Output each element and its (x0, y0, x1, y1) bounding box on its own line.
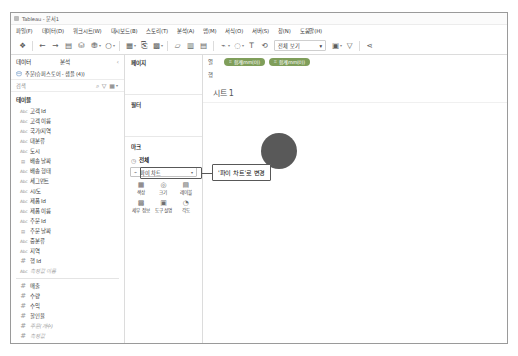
menu-file[interactable]: 파일(F) (16, 27, 33, 35)
pages-card-shelf[interactable] (125, 70, 202, 92)
filter-icon[interactable]: ▽ (102, 82, 107, 89)
pill-icon: ⌗ (274, 59, 277, 64)
field-label: 제품 이름 (30, 207, 51, 215)
marks-label-button[interactable]: ▤ 레이블 (175, 181, 197, 195)
column-pill[interactable]: ⌗ 합계(mm(0)) (269, 58, 310, 66)
list-item[interactable]: Abc고객 Id (11, 106, 124, 116)
chevron-down-icon[interactable]: ▾ (134, 43, 136, 48)
list-item[interactable]: #측정값 (11, 331, 124, 341)
swap-rows-columns-icon[interactable]: ▱ (171, 39, 184, 52)
calendar-icon: ▤ (20, 229, 26, 234)
marks-angle-button[interactable]: ◔ 각도 (175, 199, 197, 213)
abc-type-icon: Abc (20, 119, 26, 124)
save-icon[interactable]: ▤ (62, 39, 75, 52)
sort-descending-icon[interactable]: ▤ (197, 39, 210, 52)
columns-shelf[interactable]: 열 ⌗ 합계(mm(0)) ⌗ 합계(mm(0)) (203, 55, 507, 68)
fix-axes-icon[interactable]: ⟲ (258, 39, 271, 52)
column-pill[interactable]: ⌗ 합계(mm(0)) (224, 58, 265, 66)
toolbar-separator (359, 41, 360, 51)
tableau-home-icon[interactable]: ❖ (16, 39, 29, 52)
tab-analytics[interactable]: 분석 (60, 58, 104, 66)
list-item[interactable]: #행 Id (11, 256, 124, 266)
list-item[interactable]: Abc도시 (11, 146, 124, 156)
label-icon: ▤ (183, 181, 190, 189)
duplicate-sheet-icon[interactable]: ⎘ (137, 39, 150, 52)
viz-canvas[interactable] (203, 102, 507, 343)
angle-icon: ◔ (183, 199, 189, 207)
collapse-pane-icon[interactable]: ‹ (117, 58, 119, 65)
list-item[interactable]: Abc주문 Id (11, 216, 124, 226)
data-source-label: 주문(슈퍼스토어 - 샘플 (4)) (25, 70, 85, 77)
pie-chart-icon: ⌁ (134, 169, 137, 175)
view-size-selector[interactable]: 전체 보기 ▾ (274, 40, 326, 51)
sort-ascending-icon[interactable]: ▥ (184, 39, 197, 52)
marks-angle-label: 각도 (182, 208, 190, 213)
show-mark-labels-icon[interactable]: T (245, 39, 258, 52)
data-source-row[interactable]: 주문(슈퍼스토어 - 샘플 (4)) (11, 68, 124, 80)
marks-detail-button[interactable]: ▩ 세부 정보 (130, 199, 152, 213)
field-label: 할인율 (30, 312, 44, 320)
list-item[interactable]: Abc측정값 이름 (11, 266, 124, 276)
menu-worksheet[interactable]: 워크시트(W) (73, 27, 102, 35)
list-item[interactable]: Abc지역 (11, 246, 124, 256)
list-item[interactable]: ▤배송 날짜 (11, 156, 124, 166)
menu-format[interactable]: 서식(O) (225, 27, 243, 35)
list-item[interactable]: #할인율 (11, 311, 124, 321)
chevron-down-icon[interactable]: ▾ (161, 43, 163, 48)
number-type-icon: # (20, 303, 26, 310)
undo-icon[interactable]: ← (36, 39, 49, 52)
field-label: 배송 형태 (30, 167, 51, 175)
list-item[interactable]: Abc제품 Id (11, 196, 124, 206)
chevron-down-icon[interactable]: ▾ (113, 43, 115, 48)
list-item[interactable]: Abc제품 이름 (11, 206, 124, 216)
list-item[interactable]: Abc시/도 (11, 186, 124, 196)
filters-card-shelf[interactable] (125, 112, 202, 134)
rows-shelf[interactable]: 행 (203, 68, 507, 81)
share-icon[interactable]: ⋖ (363, 39, 376, 52)
search-icon[interactable]: ⌕ (96, 82, 99, 90)
marks-size-button[interactable]: ◎ 크기 (152, 181, 174, 195)
field-label: 측정값 이름 (30, 267, 56, 275)
chevron-down-icon[interactable]: ▾ (242, 43, 244, 48)
list-item[interactable]: #수량 (11, 291, 124, 301)
field-label: 중분류 (30, 237, 44, 245)
list-item[interactable]: #주문(개수) (11, 321, 124, 331)
group-by-icon[interactable]: ▦ (109, 82, 115, 89)
field-label: 지역 (30, 247, 40, 255)
list-item[interactable]: #수익 (11, 301, 124, 311)
mark-type-dropdown[interactable]: ⌁ 파이 차트 ▾ (130, 167, 197, 177)
menu-analysis[interactable]: 분석(A) (177, 27, 194, 35)
list-item[interactable]: Abc세그먼트 (11, 176, 124, 186)
menu-story[interactable]: 스토리(T) (146, 27, 168, 35)
menu-map[interactable]: 맵(M) (203, 27, 216, 35)
redo-icon[interactable]: → (49, 39, 62, 52)
menu-window[interactable]: 창(N) (278, 27, 291, 35)
menu-help[interactable]: 도움말(H) (300, 27, 322, 35)
show-me-icon[interactable]: ▽ (343, 39, 356, 52)
refresh-data-source-icon[interactable]: ⛁ (75, 39, 88, 52)
chevron-down-icon[interactable]: ▾ (228, 43, 230, 48)
chevron-down-icon: ▾ (191, 170, 193, 175)
chevron-down-icon[interactable]: ▾ (116, 83, 118, 88)
field-label: 수량 (30, 292, 40, 300)
menu-server[interactable]: 서버(S) (252, 27, 269, 35)
list-item[interactable]: Abc대분류 (11, 136, 124, 146)
cards-pane: 페이지 필터 마크 ◷ 전체 ⌁ 파이 차트 ▾ ▦ (125, 55, 203, 343)
list-item[interactable]: Abc고객 이름 (11, 116, 124, 126)
list-item[interactable]: Abc국가/지역 (11, 126, 124, 136)
menu-data[interactable]: 데이터(D) (42, 27, 64, 35)
abc-type-icon: Abc (20, 189, 26, 194)
list-item[interactable]: Abc배송 형태 (11, 166, 124, 176)
list-item[interactable]: #매출 (11, 281, 124, 291)
field-label: 주문 날짜 (30, 227, 51, 235)
tab-data[interactable]: 데이터 (16, 58, 60, 66)
chevron-down-icon[interactable]: ▾ (99, 43, 101, 48)
marks-all-row[interactable]: ◷ 전체 (130, 154, 197, 167)
list-item[interactable]: Abc중분류 (11, 236, 124, 246)
marks-tooltip-button[interactable]: ▣ 도구 설명 (152, 199, 174, 213)
list-item[interactable]: ▤주문 날짜 (11, 226, 124, 236)
marks-color-button[interactable]: ▦ 색상 (130, 181, 152, 195)
menu-dashboard[interactable]: 대시보드(B) (111, 27, 138, 35)
chevron-down-icon[interactable]: ▾ (340, 43, 342, 48)
app-body: 데이터 분석 ‹ 주문(슈퍼스토어 - 샘플 (4)) 검색 ⌕ ▽ ▦ ▾ 테… (11, 55, 507, 343)
